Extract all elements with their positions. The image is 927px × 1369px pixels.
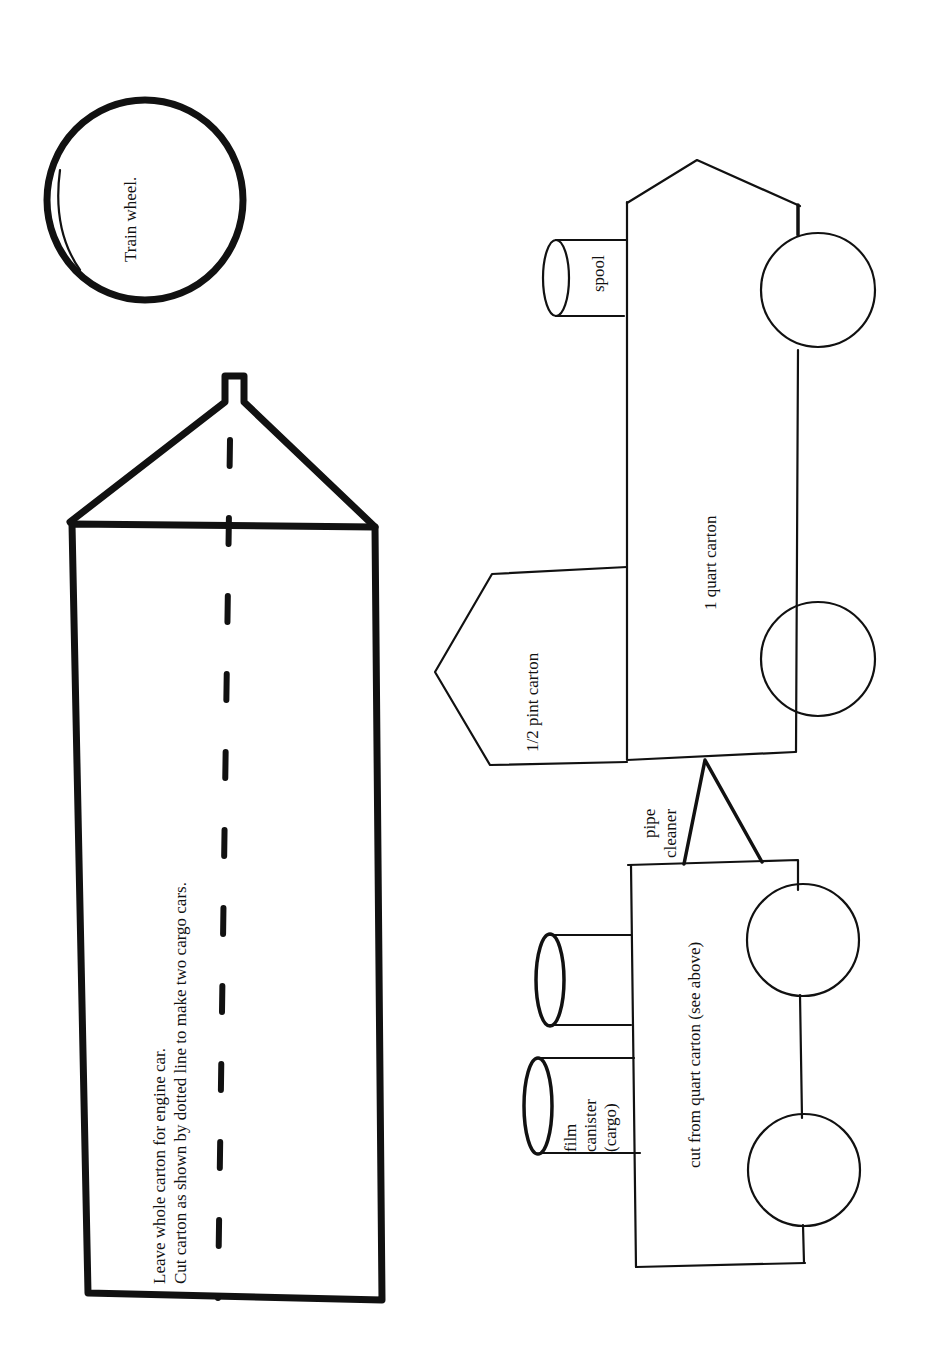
cargo-axle-line bbox=[800, 995, 802, 1118]
cargo-body-top bbox=[628, 860, 798, 890]
engine-rear-wheel bbox=[761, 602, 875, 716]
cargo-body-label: cut from quart carton (see above) bbox=[685, 942, 704, 1168]
cargo-body-bottom bbox=[636, 1263, 805, 1267]
cargo-body-right-bottom bbox=[803, 1225, 804, 1263]
cargo-label-2: canister bbox=[581, 1099, 600, 1152]
engine-car: spool 1 quart carton 1/2 pint carton bbox=[435, 160, 875, 765]
spool-end bbox=[543, 240, 569, 316]
cargo-car: cut from quart carton (see above) film c… bbox=[524, 860, 860, 1267]
spool-label: spool bbox=[589, 255, 608, 292]
wheel-label: Train wheel. bbox=[121, 177, 140, 262]
engine-front-wheel bbox=[761, 233, 875, 347]
canister-2-end bbox=[524, 1058, 552, 1154]
film-canister-2: film canister (cargo) bbox=[524, 1058, 640, 1154]
spool-smokestack: spool bbox=[543, 240, 627, 316]
engine-body-label: 1 quart carton bbox=[701, 515, 720, 610]
instruction-line-2: Cut carton as shown by dotted line to ma… bbox=[171, 882, 190, 1284]
carton-body bbox=[72, 524, 382, 1300]
engine-body-left bbox=[627, 202, 795, 760]
coupler-label-2: cleaner bbox=[661, 809, 680, 858]
canister-1-end bbox=[536, 934, 564, 1026]
half-pint-cab: 1/2 pint carton bbox=[435, 567, 627, 765]
film-canister-1 bbox=[536, 934, 631, 1026]
cargo-body-left bbox=[631, 865, 636, 1267]
carton-template: Leave whole carton for engine car. Cut c… bbox=[70, 376, 382, 1300]
wheel-circle bbox=[47, 100, 243, 300]
engine-body-right bbox=[796, 350, 798, 752]
cut-dotted-line bbox=[218, 440, 230, 1298]
carton-gable-top bbox=[70, 376, 375, 527]
cab-label: 1/2 pint carton bbox=[523, 652, 542, 752]
instruction-line-1: Leave whole carton for engine car. bbox=[150, 1048, 169, 1284]
engine-gable bbox=[627, 160, 800, 206]
pipe-cleaner-coupler: pipe cleaner bbox=[640, 760, 762, 864]
cargo-label-1: film bbox=[561, 1124, 580, 1152]
cargo-label-3: (cargo) bbox=[601, 1103, 620, 1152]
cargo-rear-wheel bbox=[748, 1114, 860, 1226]
coupler-label-1: pipe bbox=[640, 809, 659, 838]
cargo-front-wheel bbox=[747, 884, 859, 996]
train-wheel-template: Train wheel. bbox=[47, 100, 243, 300]
train-diagram: Train wheel. Leave whole carton for engi… bbox=[0, 0, 927, 1369]
coupler-line bbox=[684, 760, 762, 864]
